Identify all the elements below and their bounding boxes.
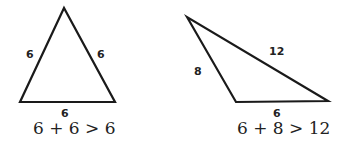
triangle-right-label-left: 8 bbox=[194, 65, 202, 78]
triangle-left-label-right: 6 bbox=[97, 48, 105, 61]
triangle-right-inequality: 6 + 8 > 12 bbox=[237, 118, 330, 138]
triangle-right-shape bbox=[187, 17, 328, 102]
triangle-inequality-diagram: 6 6 6 6 + 6 > 6 12 8 6 6 + 8 > 12 bbox=[0, 0, 358, 147]
triangle-right-label-hypotenuse: 12 bbox=[269, 45, 284, 58]
triangle-left-inequality: 6 + 6 > 6 bbox=[33, 118, 116, 138]
triangle-right: 12 8 6 6 + 8 > 12 bbox=[187, 17, 330, 138]
triangle-left: 6 6 6 6 + 6 > 6 bbox=[20, 8, 116, 138]
triangle-left-label-left: 6 bbox=[26, 48, 34, 61]
